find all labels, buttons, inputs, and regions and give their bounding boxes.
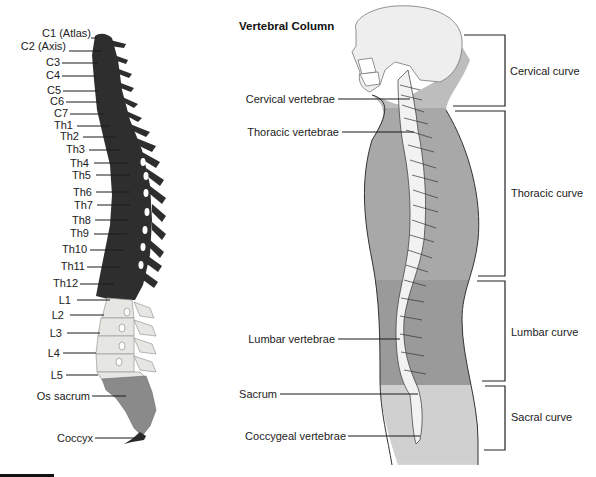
label-th7: Th7 [74,199,93,211]
label-thoracic-vertebrae: Thoracic vertebrae [247,126,339,138]
label-os-sacrum: Os sacrum [37,390,90,402]
label-th9: Th9 [70,227,89,239]
band-lumbar [340,280,500,385]
label-coccygeal-vertebrae: Coccygeal vertebrae [245,430,346,442]
label-l5: L5 [51,369,63,381]
label-c2: C2 (Axis) [21,40,66,52]
label-th10: Th10 [62,243,87,255]
label-th2: Th2 [60,130,79,142]
label-sacrum: Sacrum [239,388,277,400]
label-c1: C1 (Atlas) [42,27,91,39]
right-body-illustration [0,0,596,477]
label-coccyx: Coccyx [57,432,93,444]
label-cervical-curve: Cervical curve [510,65,580,77]
label-c4: C4 [46,69,60,81]
label-lumbar-curve: Lumbar curve [511,326,578,338]
label-thoracic-curve: Thoracic curve [511,187,583,199]
label-th11: Th11 [61,260,85,272]
label-th8: Th8 [72,214,91,226]
label-c7: C7 [54,107,68,119]
label-th3: Th3 [66,143,85,155]
label-l3: L3 [50,327,62,339]
label-th5: Th5 [72,169,91,181]
label-c3: C3 [46,56,60,68]
label-th4: Th4 [70,157,89,169]
label-l1: L1 [59,294,71,306]
label-l4: L4 [48,347,60,359]
label-lumbar-vertebrae: Lumbar vertebrae [248,333,335,345]
label-l2: L2 [52,309,64,321]
label-th6: Th6 [73,186,92,198]
label-sacral-curve: Sacral curve [511,411,572,423]
label-th12: Th12 [53,277,78,289]
label-cervical-vertebrae: Cervical vertebrae [246,93,335,105]
label-c6: C6 [50,95,64,107]
diagram-title: Vertebral Column [239,20,334,32]
